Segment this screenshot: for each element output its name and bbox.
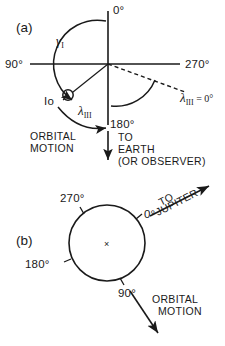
panel-b-label-180deg: 180° xyxy=(25,258,50,270)
jupiter-io-longitude-diagram: (a) 0° 90° 270° 180° Io γI λIII xyxy=(0,0,225,346)
panel-a-label: (a) xyxy=(16,20,33,35)
io-body-marker xyxy=(63,90,73,100)
panel-a-label-180deg: 180° xyxy=(110,118,135,130)
to-earth-line3: (OR OBSERVER) xyxy=(118,155,206,167)
tick-180deg xyxy=(64,259,71,262)
to-earth-line1: TO xyxy=(118,131,133,143)
jupiter-center-mark: × xyxy=(104,239,109,249)
panel-b-orbital-motion-line2: MOTION xyxy=(158,305,202,317)
lambda-angle-arc xyxy=(111,80,155,106)
panel-a-label-90deg: 90° xyxy=(5,58,23,70)
panel-a: (a) 0° 90° 270° 180° Io γI λIII xyxy=(5,4,213,167)
gamma-label: γI xyxy=(56,33,64,50)
panel-b-label: (b) xyxy=(16,233,33,248)
panel-a-label-270deg: 270° xyxy=(185,58,210,70)
io-label: Io xyxy=(44,95,54,107)
panel-b-orbital-motion-line1: ORBITAL xyxy=(152,293,198,305)
gamma-angle-arc xyxy=(54,20,106,100)
panel-a-label-0deg: 0° xyxy=(113,4,124,16)
lambda-iii-label: λIII xyxy=(77,103,92,120)
tick-270deg xyxy=(80,207,84,214)
figure-container: (a) 0° 90° 270° 180° Io γI λIII xyxy=(0,0,225,346)
panel-a-orbital-motion-line2: MOTION xyxy=(30,142,74,154)
lambda-iii-zero-label: λIII = 0° xyxy=(179,90,213,107)
tick-0deg xyxy=(136,214,142,219)
to-earth-line2: EARTH xyxy=(118,143,155,155)
panel-b-label-270deg: 270° xyxy=(60,192,85,204)
tick-90deg xyxy=(120,278,124,285)
panel-a-reference-dashed-line xyxy=(108,64,185,92)
panel-a-orbital-motion-line1: ORBITAL xyxy=(30,130,76,142)
panel-b: (b) × 0° 90° 180° 270° TO JUPITER ORBITA… xyxy=(16,186,209,333)
